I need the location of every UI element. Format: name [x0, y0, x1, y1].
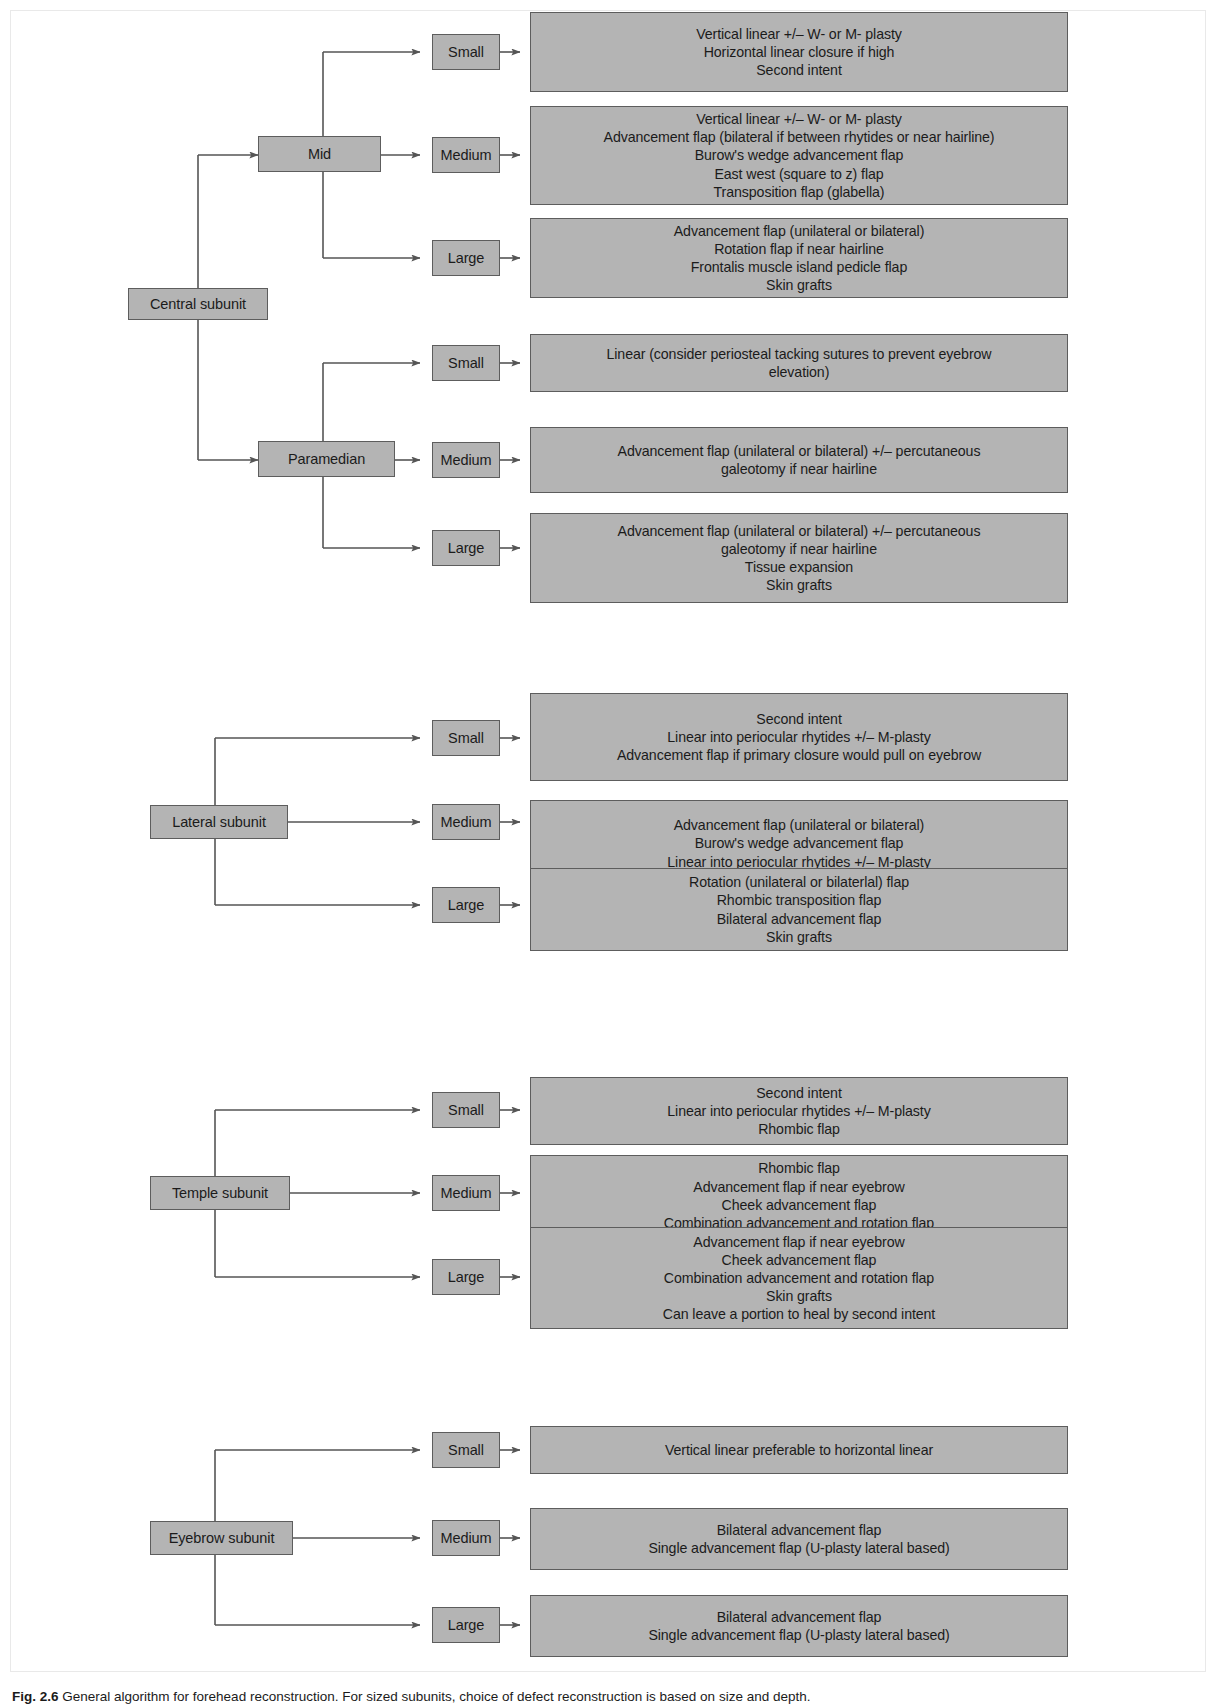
detail-eyebrow-large[interactable]: Bilateral advancement flap Single advanc… [530, 1595, 1068, 1657]
detail-central-mid-large[interactable]: Advancement flap (unilateral or bilatera… [530, 218, 1068, 298]
node-central-subunit[interactable]: Central subunit [128, 288, 268, 320]
node-size-large-lateral[interactable]: Large [432, 887, 500, 923]
detail-temple-large[interactable]: Advancement flap if near eyebrow Cheek a… [530, 1227, 1068, 1329]
detail-central-paramedian-small[interactable]: Linear (consider periosteal tacking sutu… [530, 334, 1068, 392]
node-size-small-temple[interactable]: Small [432, 1092, 500, 1128]
detail-central-mid-medium[interactable]: Vertical linear +/– W- or M- plasty Adva… [530, 106, 1068, 205]
node-size-large-central-paramedian[interactable]: Large [432, 530, 500, 566]
node-size-large-temple[interactable]: Large [432, 1259, 500, 1295]
node-temple-subunit[interactable]: Temple subunit [150, 1176, 290, 1210]
figure-caption-text: General algorithm for forehead reconstru… [62, 1689, 810, 1704]
node-size-large-central-mid[interactable]: Large [432, 240, 500, 276]
detail-lateral-large[interactable]: Rotation (unilateral or bilaterlal) flap… [530, 868, 1068, 951]
node-size-large-eyebrow[interactable]: Large [432, 1607, 500, 1643]
detail-eyebrow-small[interactable]: Vertical linear preferable to horizontal… [530, 1426, 1068, 1474]
detail-lateral-small[interactable]: Second intent Linear into periocular rhy… [530, 693, 1068, 781]
detail-central-mid-small[interactable]: Vertical linear +/– W- or M- plasty Hori… [530, 12, 1068, 92]
node-size-medium-central-paramedian[interactable]: Medium [432, 442, 500, 478]
node-size-medium-lateral[interactable]: Medium [432, 804, 500, 840]
node-paramedian[interactable]: Paramedian [258, 441, 395, 477]
figure-caption-number: Fig. 2.6 [12, 1689, 59, 1704]
node-size-medium-temple[interactable]: Medium [432, 1175, 500, 1211]
node-size-medium-eyebrow[interactable]: Medium [432, 1520, 500, 1556]
node-size-medium-central-mid[interactable]: Medium [432, 137, 500, 173]
node-mid[interactable]: Mid [258, 136, 381, 172]
detail-temple-small[interactable]: Second intent Linear into periocular rhy… [530, 1077, 1068, 1145]
detail-central-paramedian-medium[interactable]: Advancement flap (unilateral or bilatera… [530, 427, 1068, 493]
node-size-small-eyebrow[interactable]: Small [432, 1432, 500, 1468]
detail-eyebrow-medium[interactable]: Bilateral advancement flap Single advanc… [530, 1508, 1068, 1570]
node-size-small-central-mid[interactable]: Small [432, 34, 500, 70]
figure-page: Central subunit Mid Paramedian Small Med… [0, 0, 1217, 1708]
node-lateral-subunit[interactable]: Lateral subunit [150, 805, 288, 839]
node-size-small-lateral[interactable]: Small [432, 720, 500, 756]
detail-central-paramedian-large[interactable]: Advancement flap (unilateral or bilatera… [530, 513, 1068, 603]
figure-caption: Fig. 2.6 General algorithm for forehead … [12, 1688, 1205, 1708]
node-eyebrow-subunit[interactable]: Eyebrow subunit [150, 1521, 293, 1555]
node-size-small-central-paramedian[interactable]: Small [432, 345, 500, 381]
